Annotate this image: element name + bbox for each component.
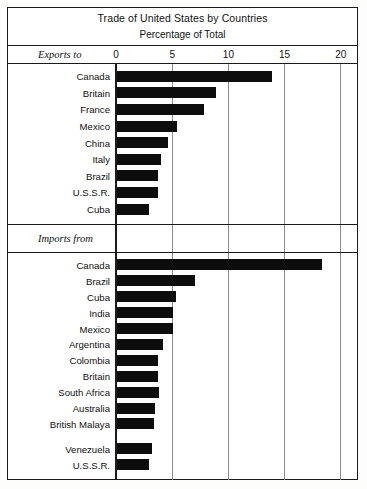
x-tick-label: 10: [223, 49, 234, 60]
x-tick-label: 20: [335, 49, 346, 60]
bar: [117, 371, 158, 382]
category-label: Britain: [8, 372, 110, 382]
bar: [117, 275, 195, 286]
bar: [117, 204, 149, 215]
chart-row: Canada: [8, 257, 357, 273]
category-label: U.S.S.R.: [8, 461, 110, 471]
chart-row: Cuba: [8, 289, 357, 305]
page-title: Trade of United States by Countries: [8, 12, 357, 24]
bar: [117, 87, 216, 98]
chart-row: India: [8, 305, 357, 321]
chart-row: South Africa: [8, 384, 357, 400]
chart-row: Cuba: [8, 201, 357, 218]
chart-row: Britain: [8, 85, 357, 102]
bar: [117, 71, 272, 82]
x-tick-label: 5: [169, 49, 175, 60]
bar: [117, 459, 149, 470]
chart-row: Italy: [8, 151, 357, 168]
x-tick-label: 0: [113, 49, 119, 60]
category-label: Brazil: [8, 277, 110, 287]
bar: [117, 104, 204, 115]
chart-paper: Trade of United States by Countries Perc…: [0, 0, 367, 489]
chart-row: Australia: [8, 400, 357, 416]
chart-inner: Trade of United States by Countries Perc…: [8, 8, 357, 479]
exports-plot-area: CanadaBritainFranceMexicoChinaItalyBrazi…: [8, 64, 357, 225]
category-label: Brazil: [8, 172, 110, 182]
category-label: China: [8, 139, 110, 149]
category-label: France: [8, 105, 110, 115]
bar: [117, 339, 163, 350]
bar: [117, 259, 322, 270]
x-tick-label: 15: [279, 49, 290, 60]
section-label-exports: Exports to: [38, 49, 81, 60]
chart-row: Canada: [8, 68, 357, 85]
bar: [117, 387, 159, 398]
chart-row: British Malaya: [8, 416, 357, 432]
category-label: Colombia: [8, 356, 110, 366]
chart-row: Brazil: [8, 273, 357, 289]
category-label: Australia: [8, 404, 110, 414]
bar: [117, 121, 177, 132]
bar: [117, 291, 176, 302]
category-label: Britain: [8, 89, 110, 99]
bar: [117, 355, 158, 366]
category-label: Cuba: [8, 293, 110, 303]
gridline: [284, 225, 285, 252]
bar: [117, 418, 154, 429]
category-label: Venezuela: [8, 445, 110, 455]
imports-plot-area: CanadaBrazilCubaIndiaMexicoArgentinaColo…: [8, 253, 357, 480]
chart-row: China: [8, 134, 357, 151]
chart-subtitle: Percentage of Total: [8, 29, 357, 40]
bar: [117, 187, 158, 198]
category-label: U.S.S.R.: [8, 188, 110, 198]
category-label: British Malaya: [8, 420, 110, 430]
gridline: [228, 225, 229, 252]
gridline: [340, 225, 341, 252]
y-axis-line: [115, 225, 116, 252]
axis-header-band: Exports to 05101520: [8, 46, 357, 64]
chart-row: U.S.S.R.: [8, 457, 357, 473]
category-label: Argentina: [8, 340, 110, 350]
bar: [117, 403, 155, 414]
category-label: South Africa: [8, 388, 110, 398]
bar: [117, 307, 173, 318]
category-label: Canada: [8, 72, 110, 82]
bar: [117, 323, 173, 334]
gridline: [172, 225, 173, 252]
chart-row: Brazil: [8, 168, 357, 185]
chart-frame: Trade of United States by Countries Perc…: [7, 7, 358, 480]
imports-header-band: Imports from: [8, 225, 357, 253]
section-label-imports: Imports from: [38, 233, 93, 244]
chart-row: Colombia: [8, 352, 357, 368]
bar: [117, 170, 158, 181]
category-label: Mexico: [8, 122, 110, 132]
category-label: Canada: [8, 261, 110, 271]
chart-row: Mexico: [8, 321, 357, 337]
category-label: Italy: [8, 155, 110, 165]
bar: [117, 154, 161, 165]
chart-row: France: [8, 101, 357, 118]
category-label: India: [8, 309, 110, 319]
title-band: Trade of United States by Countries Perc…: [8, 8, 357, 46]
category-label: Cuba: [8, 205, 110, 215]
chart-row: Venezuela: [8, 441, 357, 457]
category-label: Mexico: [8, 325, 110, 335]
chart-row: U.S.S.R.: [8, 184, 357, 201]
chart-row: Mexico: [8, 118, 357, 135]
chart-row: Argentina: [8, 337, 357, 353]
chart-row: Britain: [8, 368, 357, 384]
bar: [117, 137, 168, 148]
bar: [117, 443, 152, 454]
